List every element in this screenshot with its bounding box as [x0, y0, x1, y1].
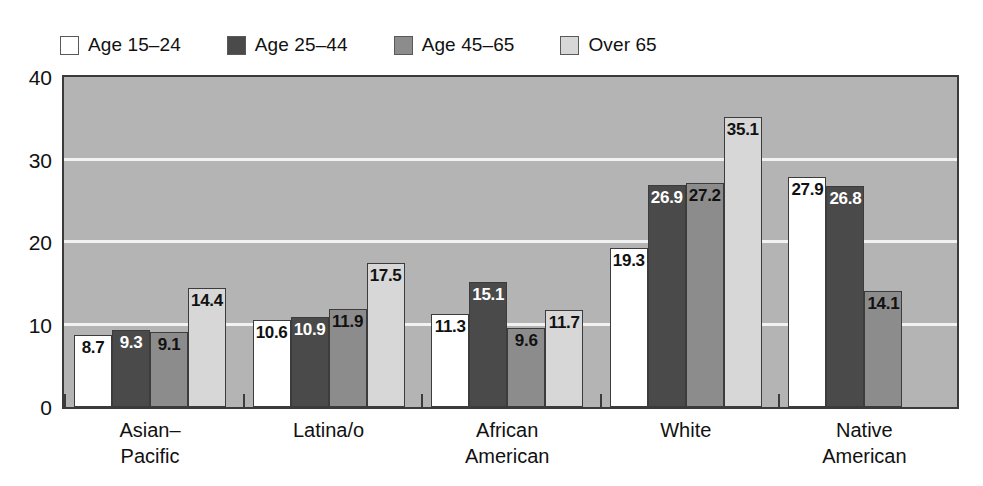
bar-value-label: 15.1 — [470, 286, 506, 304]
bar-value-label: 10.6 — [254, 324, 290, 342]
bar-value-label: 9.6 — [508, 332, 544, 350]
bar-value-label: 11.3 — [432, 318, 468, 336]
y-axis-tick-label: 40 — [0, 67, 52, 88]
y-axis-tick-label: 30 — [0, 150, 52, 171]
legend-item: Age 15–24 — [60, 34, 181, 56]
legend-item-label: Age 15–24 — [88, 34, 181, 56]
x-axis-tick — [778, 394, 780, 407]
chart-legend: Age 15–24Age 25–44Age 45–65Over 65 — [60, 30, 703, 60]
legend-swatch-icon — [560, 36, 579, 55]
x-axis-category-label: Asian– Pacific — [54, 418, 246, 469]
bar-value-label: 35.1 — [725, 121, 761, 139]
y-axis-tick-label: 10 — [0, 315, 52, 336]
x-axis-tick — [421, 394, 423, 407]
bar-value-label: 11.7 — [546, 314, 582, 332]
bar: 9.6 — [507, 328, 545, 407]
bar: 14.4 — [188, 288, 226, 407]
bar: 15.1 — [469, 282, 507, 407]
legend-item-label: Age 25–44 — [255, 34, 348, 56]
bar: 11.9 — [329, 309, 367, 407]
x-axis-tick — [600, 394, 602, 407]
bar: 27.9 — [788, 177, 826, 407]
bar: 17.5 — [367, 263, 405, 407]
legend-swatch-icon — [227, 36, 246, 55]
bar-value-label: 11.9 — [330, 313, 366, 331]
bar: 10.6 — [253, 320, 291, 407]
bar-group: 27.926.814.1 — [788, 77, 940, 407]
x-axis-category-label: African American — [411, 418, 603, 469]
legend-item-label: Age 45–65 — [422, 34, 515, 56]
y-axis-tick-label: 20 — [0, 232, 52, 253]
legend-swatch-icon — [60, 36, 79, 55]
bar-value-label: 8.7 — [75, 339, 111, 357]
bar: 35.1 — [724, 117, 762, 407]
bar: 11.7 — [545, 310, 583, 407]
x-axis-tick — [243, 394, 245, 407]
bar-value-label: 9.3 — [113, 334, 149, 352]
bar: 19.3 — [610, 248, 648, 407]
legend-item: Age 45–65 — [394, 34, 515, 56]
bar-value-label: 26.8 — [827, 190, 863, 208]
x-axis-category-label: Native American — [768, 418, 960, 469]
x-axis-category-labels: Asian– PacificLatina/oAfrican AmericanWh… — [64, 418, 957, 480]
bar-value-label: 14.4 — [189, 292, 225, 310]
bar-value-label: 9.1 — [151, 336, 187, 354]
bar: 9.1 — [150, 332, 188, 407]
bar-groups: 8.79.39.114.410.610.911.917.511.315.19.6… — [64, 77, 957, 407]
legend-swatch-icon — [394, 36, 413, 55]
bar: 11.3 — [431, 314, 469, 407]
bar-value-label: 27.2 — [687, 187, 723, 205]
bar-value-label: 26.9 — [649, 189, 685, 207]
chart-area: 010203040 8.79.39.114.410.610.911.917.51… — [0, 64, 983, 412]
legend-item: Age 25–44 — [227, 34, 348, 56]
x-axis-category-label: Latina/o — [233, 418, 425, 444]
bar-value-label: 27.9 — [789, 181, 825, 199]
bar-group: 11.315.19.611.7 — [431, 77, 583, 407]
bar-value-label: 17.5 — [368, 267, 404, 285]
bar: 8.7 — [74, 335, 112, 407]
bar-value-label: 19.3 — [611, 252, 647, 270]
bar-group: 19.326.927.235.1 — [610, 77, 762, 407]
bar-group: 8.79.39.114.4 — [74, 77, 226, 407]
x-axis-category-label: White — [590, 418, 782, 444]
bar-value-label: 10.9 — [292, 321, 328, 339]
bar: 10.9 — [291, 317, 329, 407]
y-axis-tick-label: 0 — [0, 397, 52, 418]
x-axis-tick — [64, 394, 66, 407]
legend-item-label: Over 65 — [588, 34, 656, 56]
bar: 27.2 — [686, 183, 724, 407]
bar-group: 10.610.911.917.5 — [253, 77, 405, 407]
bar-value-label: 14.1 — [865, 295, 901, 313]
bar: 14.1 — [864, 291, 902, 407]
bar: 26.8 — [826, 186, 864, 407]
legend-item: Over 65 — [560, 34, 656, 56]
bar: 9.3 — [112, 330, 150, 407]
bar: 26.9 — [648, 185, 686, 407]
